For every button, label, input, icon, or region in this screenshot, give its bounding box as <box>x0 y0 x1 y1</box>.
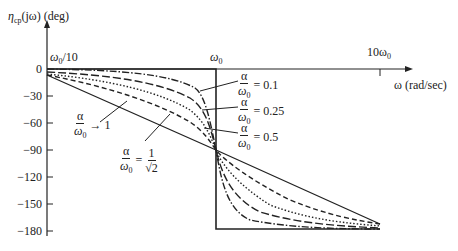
x-tick-label-w0: ω0 <box>210 51 222 66</box>
annotation-leaders <box>100 81 238 141</box>
y-tick-60: −60 <box>6 117 42 129</box>
x-tick-label-w0-10: ω0/10 <box>50 51 78 66</box>
y-tick-0: 0 <box>6 63 42 75</box>
y-tick-150: −150 <box>6 198 42 210</box>
y-tick-120: −120 <box>6 171 42 183</box>
x-tick-label-10w0: 10ω0 <box>367 46 391 61</box>
y-tick-180: −180 <box>6 225 42 237</box>
series-1 <box>47 75 380 224</box>
y-ticks <box>47 96 53 231</box>
y-axis-label: ηcp(jω) (deg) <box>8 10 69 25</box>
annotation-alpha-inv-sqrt2: αω0 = 1√2 <box>120 145 158 175</box>
series-0.25 <box>47 72 380 228</box>
phase-plot <box>0 0 458 251</box>
x-axis-arrow-icon <box>405 66 413 72</box>
x-axis-label: ω (rad/sec) <box>394 79 447 91</box>
annotation-alpha-0.5: αω0 = 0.5 <box>238 122 278 152</box>
y-tick-30: −30 <box>6 90 42 102</box>
y-tick-90: −90 <box>6 144 42 156</box>
annotation-alpha-to-1: αω0 → 1 <box>74 110 110 140</box>
